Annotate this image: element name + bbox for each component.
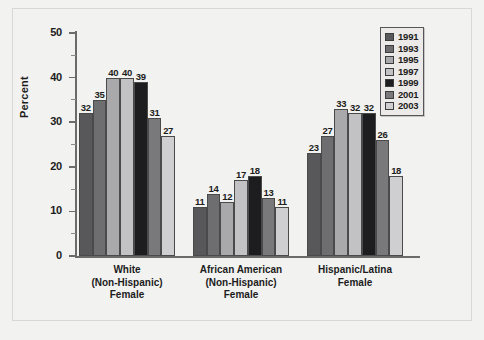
bar-value-label: 27 — [163, 125, 173, 136]
y-axis-tick-major — [69, 32, 76, 34]
y-axis-tick-label: 30 — [22, 115, 62, 127]
bar: 33 — [334, 109, 348, 256]
bar: 18 — [248, 176, 262, 256]
bar: 32 — [362, 113, 376, 256]
bar-value-label: 40 — [122, 67, 132, 78]
bar-chart-figure: Percent 01020304050 32354040393127111412… — [0, 0, 484, 340]
bar-value-label: 26 — [377, 129, 387, 140]
legend-item[interactable]: 1995 — [385, 55, 418, 66]
bar: 13 — [262, 198, 276, 256]
legend-item-label: 2003 — [398, 101, 418, 111]
bar: 17 — [234, 180, 248, 256]
legend-swatch-icon — [385, 68, 394, 76]
legend-item[interactable]: 1999 — [385, 78, 418, 89]
bar: 26 — [376, 140, 390, 256]
bar: 14 — [207, 194, 221, 256]
y-axis-tick-major — [69, 166, 76, 168]
bar: 27 — [321, 136, 335, 256]
legend-item-label: 1999 — [398, 78, 418, 88]
bar-value-label: 23 — [309, 142, 319, 153]
legend-swatch-icon — [385, 79, 394, 87]
bar: 27 — [161, 136, 175, 256]
bar-value-label: 33 — [336, 98, 346, 109]
legend-item-label: 1993 — [398, 44, 418, 54]
legend-swatch-icon — [385, 102, 394, 110]
legend-item-label: 1997 — [398, 67, 418, 77]
y-axis-tick-major — [69, 255, 76, 257]
y-axis-tick-major — [69, 211, 76, 213]
bar-value-label: 32 — [350, 102, 360, 113]
bar-value-label: 32 — [81, 102, 91, 113]
bar-value-label: 14 — [209, 183, 219, 194]
plot-area: 3235404039312711141217181311232733323226… — [76, 33, 418, 256]
bar-value-label: 32 — [364, 102, 374, 113]
bar: 23 — [307, 153, 321, 256]
category-label-line: Female — [275, 277, 435, 290]
bar: 35 — [93, 100, 107, 256]
bar-value-label: 35 — [95, 89, 105, 100]
bar: 12 — [220, 202, 234, 256]
y-axis-tick-major — [69, 121, 76, 123]
bar-value-label: 13 — [263, 187, 273, 198]
legend-swatch-icon — [385, 33, 394, 41]
bar-value-label: 40 — [108, 67, 118, 78]
y-axis-tick-major — [69, 77, 76, 79]
legend-swatch-icon — [385, 45, 394, 53]
legend-item-label: 1995 — [398, 55, 418, 65]
legend-item-label: 2001 — [398, 90, 418, 100]
y-axis-tick-label: 50 — [22, 26, 62, 38]
y-axis-tick-label: 10 — [22, 204, 62, 216]
category-label-line: Female — [161, 289, 321, 302]
bar: 11 — [275, 207, 289, 256]
legend-item[interactable]: 2001 — [385, 89, 418, 100]
y-axis-tick-label: 0 — [22, 249, 62, 261]
bar-value-label: 17 — [236, 169, 246, 180]
category-label-line: Hispanic/Latina — [275, 264, 435, 277]
legend: 1991199319951997199920012003 — [380, 27, 424, 116]
legend-item-label: 1991 — [398, 32, 418, 42]
legend-item[interactable]: 1993 — [385, 43, 418, 54]
bar-value-label: 18 — [391, 165, 401, 176]
bar-value-label: 27 — [323, 125, 333, 136]
legend-swatch-icon — [385, 56, 394, 64]
bar: 40 — [120, 78, 134, 256]
bar-value-label: 12 — [222, 191, 232, 202]
bar-group: 32354040393127 — [79, 33, 175, 256]
bar-value-label: 11 — [277, 196, 286, 207]
legend-item[interactable]: 2003 — [385, 101, 418, 112]
bar-value-label: 31 — [149, 107, 159, 118]
bar: 18 — [389, 176, 403, 256]
bar-group: 11141217181311 — [193, 33, 289, 256]
y-axis-tick-label: 20 — [22, 160, 62, 172]
bar-value-label: 18 — [250, 165, 260, 176]
legend-item[interactable]: 1991 — [385, 32, 418, 43]
y-axis-tick-label: 40 — [22, 71, 62, 83]
x-axis-line — [75, 256, 420, 258]
bar: 32 — [79, 113, 93, 256]
bar: 40 — [106, 78, 120, 256]
bar: 32 — [348, 113, 362, 256]
bar-value-label: 11 — [195, 196, 204, 207]
legend-swatch-icon — [385, 91, 394, 99]
x-axis-category-label: Hispanic/LatinaFemale — [275, 264, 435, 289]
bar: 11 — [193, 207, 207, 256]
bar-value-label: 39 — [136, 71, 146, 82]
legend-item[interactable]: 1997 — [385, 66, 418, 77]
bar: 31 — [148, 118, 162, 256]
bar: 39 — [134, 82, 148, 256]
